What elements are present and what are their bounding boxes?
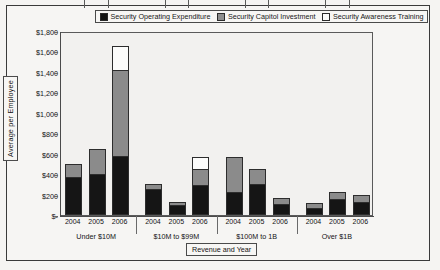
- x-axis-group-label: Over $1B: [302, 232, 372, 241]
- y-axis-tick-mark: [54, 175, 58, 176]
- bar-segment: [249, 169, 266, 184]
- bar-segment: [192, 157, 209, 169]
- y-axis-tick-label: $600: [6, 150, 58, 159]
- bar-stack[interactable]: [249, 169, 266, 215]
- x-axis-group-label: $10M to $99M: [141, 232, 211, 241]
- bar-segment: [65, 177, 82, 215]
- x-axis-tick-mark: [188, 0, 189, 8]
- plot-area: [60, 32, 373, 216]
- bar-segment: [112, 156, 129, 215]
- y-axis-tick-mark: [54, 73, 58, 74]
- y-axis-tick-label: $1,800: [6, 28, 58, 37]
- x-axis-year-label: 2006: [105, 218, 135, 225]
- bar-stack[interactable]: [112, 46, 129, 215]
- bar-stack[interactable]: [273, 198, 290, 215]
- x-axis-tick-mark: [325, 0, 326, 8]
- bar-segment: [249, 184, 266, 215]
- bar-segment: [112, 70, 129, 156]
- x-axis-group-separator: [297, 216, 298, 234]
- bars-layer: [61, 33, 372, 215]
- bar-stack[interactable]: [306, 203, 323, 215]
- bar-segment: [145, 189, 162, 215]
- legend-swatch-icon: [100, 13, 108, 21]
- y-axis-tick-mark: [54, 134, 58, 135]
- legend-label: Security Operating Expenditure: [111, 12, 211, 21]
- y-axis-tick-mark: [54, 114, 58, 115]
- y-axis-tick-mark: [54, 155, 58, 156]
- legend-label: Security Awareness Training: [333, 12, 424, 21]
- bar-segment: [192, 185, 209, 215]
- bar-segment: [353, 202, 370, 215]
- y-axis-tick-label: $1,600: [6, 48, 58, 57]
- bar-stack[interactable]: [145, 184, 162, 215]
- y-axis-tick-mark: [54, 216, 58, 217]
- legend-swatch-icon: [322, 13, 330, 21]
- x-axis-tick-mark: [84, 0, 85, 8]
- y-axis-tick-label: $1,200: [6, 89, 58, 98]
- bar-segment: [273, 204, 290, 215]
- y-axis-tick-mark: [54, 32, 58, 33]
- bar-stack[interactable]: [353, 195, 370, 215]
- y-axis-line: [60, 32, 61, 217]
- x-axis-title: Revenue and Year: [186, 243, 257, 256]
- bar-segment: [65, 164, 82, 177]
- bar-segment: [89, 149, 106, 175]
- bar-segment: [306, 208, 323, 215]
- y-axis-tick-label: $1,000: [6, 109, 58, 118]
- y-axis-tick-label: $-: [6, 212, 58, 221]
- y-axis-tick-mark: [54, 52, 58, 53]
- y-axis-tick-label: $1,400: [6, 68, 58, 77]
- y-axis-tick-label: $400: [6, 171, 58, 180]
- legend-item-operating-expenditure: Security Operating Expenditure: [100, 12, 210, 21]
- y-axis-tick-mark: [54, 196, 58, 197]
- bar-segment: [226, 192, 243, 216]
- x-axis-group-separator: [136, 216, 137, 234]
- x-axis-tick-mark: [268, 0, 269, 8]
- chart-page: to interpret the of security of the data…: [0, 0, 440, 270]
- bar-segment: [192, 169, 209, 185]
- legend-item-capitol-investment: Security Capitol Investment: [217, 12, 315, 21]
- bar-stack[interactable]: [65, 164, 82, 215]
- bar-segment: [89, 174, 106, 215]
- y-axis-tick-label: $200: [6, 191, 58, 200]
- legend-swatch-icon: [217, 13, 225, 21]
- bar-segment: [329, 199, 346, 215]
- x-axis-year-label: 2006: [185, 218, 215, 225]
- legend-label: Security Capitol Investment: [228, 12, 316, 21]
- x-axis-group-label: $100M to 1B: [222, 232, 292, 241]
- x-axis-group-label: Under $10M: [61, 232, 131, 241]
- bar-segment: [112, 46, 129, 70]
- x-axis-tick-mark: [165, 0, 166, 8]
- x-axis-year-label: 2006: [345, 218, 375, 225]
- bar-stack[interactable]: [226, 157, 243, 215]
- bar-stack[interactable]: [192, 157, 209, 215]
- x-axis-tick-mark: [245, 0, 246, 8]
- bar-segment: [329, 192, 346, 200]
- x-axis-tick-mark: [349, 0, 350, 8]
- x-axis-tick-mark: [108, 0, 109, 8]
- y-axis-tick-mark: [54, 93, 58, 94]
- legend-item-awareness-training: Security Awareness Training: [322, 12, 423, 21]
- x-axis-group-separator: [217, 216, 218, 234]
- bar-stack[interactable]: [89, 149, 106, 215]
- bar-stack[interactable]: [329, 192, 346, 216]
- chart-legend: Security Operating Expenditure Security …: [95, 10, 428, 23]
- bar-segment: [353, 195, 370, 202]
- bar-segment: [226, 157, 243, 192]
- bar-segment: [169, 205, 186, 215]
- y-axis-tick-label: $800: [6, 130, 58, 139]
- bar-stack[interactable]: [169, 202, 186, 215]
- x-axis-year-label: 2006: [265, 218, 295, 225]
